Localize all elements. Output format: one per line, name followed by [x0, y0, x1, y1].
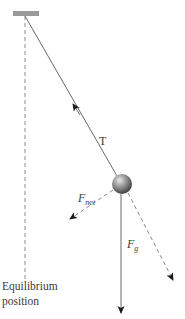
equilibrium-caption-line2: position	[2, 296, 39, 308]
net-force-label-sub: net	[85, 198, 95, 207]
pendulum-bob	[112, 174, 132, 194]
string-extension-vector	[128, 193, 173, 280]
ceiling-support	[13, 11, 39, 16]
pendulum-diagram	[0, 0, 185, 319]
equilibrium-caption-line1: Equilibrium	[2, 281, 58, 293]
gravity-label: Fg	[127, 238, 138, 253]
net-force-label: Fnet	[78, 192, 95, 207]
pendulum-string	[25, 16, 117, 176]
tension-label: T	[99, 135, 106, 147]
gravity-label-sub: g	[134, 244, 138, 253]
